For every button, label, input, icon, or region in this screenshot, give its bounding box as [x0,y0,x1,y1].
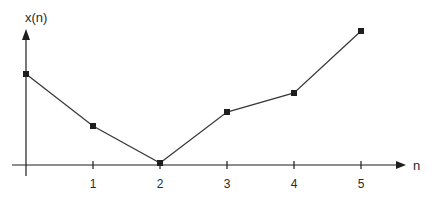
data-point-marker [157,160,163,166]
y-axis-arrow-icon [22,29,30,40]
x-tick-label: 1 [90,177,97,191]
y-axis-title: x(n) [25,10,47,25]
data-point-marker [358,28,364,34]
data-point-marker [224,109,230,115]
x-axis-arrow-icon [396,161,406,169]
data-point-marker [291,90,297,96]
series-line [26,31,361,163]
line-chart: 12345 x(n) n [0,0,440,198]
series-x-n [23,28,364,166]
x-tick-label: 2 [157,177,164,191]
x-tick-label: 3 [224,177,231,191]
data-point-marker [90,123,96,129]
x-axis-title: n [413,158,420,173]
axes [12,29,406,176]
x-tick-label: 4 [291,177,298,191]
data-point-marker [23,71,29,77]
x-tick-label: 5 [358,177,365,191]
